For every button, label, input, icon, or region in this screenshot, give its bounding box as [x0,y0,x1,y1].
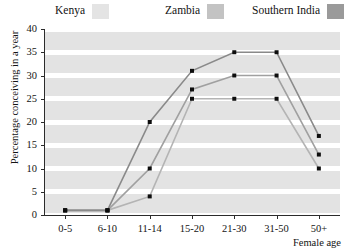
x-tick-label: 31-50 [264,224,289,235]
y-tick-mark [41,192,44,193]
y-axis-ticks: 0510152025303540 [0,29,44,215]
legend-swatch-1 [207,4,224,19]
data-point [148,120,152,124]
data-point [105,208,109,212]
y-tick-mark [41,52,44,53]
y-tick-mark [41,145,44,146]
data-point [232,74,236,78]
x-tick-label: 11-14 [138,224,162,235]
y-tick-mark [41,76,44,77]
y-tick-mark [41,122,44,123]
data-point [190,87,194,91]
legend-item-0: Kenya [55,0,109,22]
data-point [317,167,321,171]
legend-item-2: Southern India [252,0,344,22]
x-tick-mark [192,215,193,219]
y-tick-mark [41,169,44,170]
legend-label-0: Kenya [55,5,85,17]
y-tick-label: 15 [27,140,38,151]
x-tick-mark [107,215,108,219]
data-point [148,167,152,171]
y-tick-label: 0 [32,210,37,221]
x-axis-title: Female age [0,237,341,248]
x-tick-label: 6-10 [98,224,117,235]
y-axis-line [44,29,45,216]
y-tick-label: 20 [27,117,38,128]
legend-item-1: Zambia [165,0,224,22]
x-tick-mark [150,215,151,219]
x-tick-label: 15-20 [180,224,205,235]
series-svg [44,29,340,215]
chart-figure: Kenya Zambia Southern India Percentage c… [0,0,347,251]
data-point [190,69,194,73]
y-tick-label: 5 [32,187,37,198]
data-point [317,134,321,138]
data-point [317,153,321,157]
series-line-1 [65,76,319,211]
y-tick-mark [41,29,44,30]
series-line-2 [65,52,319,210]
y-tick-label: 40 [27,24,38,35]
chart-legend: Kenya Zambia Southern India [0,0,347,22]
legend-label-1: Zambia [165,5,200,17]
data-point [275,97,279,101]
y-tick-label: 25 [27,94,38,105]
x-tick-label: 21-30 [222,224,247,235]
data-point [232,50,236,54]
x-tick-mark [319,215,320,219]
x-tick-label: 50+ [311,224,327,235]
legend-swatch-0 [92,4,109,19]
data-point [190,97,194,101]
series-layer [44,29,340,215]
y-tick-label: 35 [27,47,38,58]
data-point [63,208,67,212]
data-point [148,194,152,198]
x-tick-mark [277,215,278,219]
x-tick-label: 0-5 [58,224,72,235]
series-line-0 [65,99,319,211]
x-tick-mark [65,215,66,219]
x-tick-mark [234,215,235,219]
y-tick-label: 30 [27,70,38,81]
data-point [275,50,279,54]
y-tick-mark [41,99,44,100]
plot-area [44,29,340,215]
legend-label-2: Southern India [252,5,320,17]
data-point [275,74,279,78]
data-point [232,97,236,101]
y-tick-label: 10 [27,163,38,174]
legend-swatch-2 [327,4,344,19]
